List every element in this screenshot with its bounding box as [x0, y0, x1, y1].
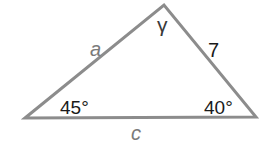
triangle-diagram: a 7 c γ 45° 40° [0, 0, 270, 143]
side-c-label: c [131, 122, 141, 143]
triangle-svg: a 7 c γ 45° 40° [0, 0, 270, 143]
angle-right-label: 40° [204, 97, 233, 118]
angle-left-label: 45° [60, 97, 89, 118]
side-b-label: 7 [208, 39, 219, 61]
side-a-label: a [90, 38, 101, 60]
angle-gamma-label: γ [157, 13, 168, 36]
